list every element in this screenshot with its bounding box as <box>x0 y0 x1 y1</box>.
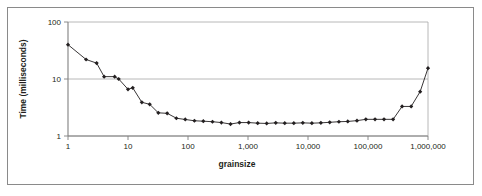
data-point-marker <box>102 75 106 79</box>
series-line-time vs grainsize <box>68 45 428 124</box>
x-axis-title: grainsize <box>219 159 256 169</box>
x-tick-label-100: 100 <box>181 142 195 151</box>
data-point-marker <box>237 120 241 124</box>
x-tick-label-1,000,000: 1,000,000 <box>410 142 446 151</box>
y-tick-label-1: 1 <box>57 132 62 141</box>
data-point-marker <box>95 61 99 65</box>
data-point-marker <box>113 75 117 79</box>
y-tick-label-10: 10 <box>52 75 61 84</box>
data-point-marker <box>165 111 169 115</box>
data-point-marker <box>283 121 287 125</box>
data-point-marker <box>140 100 144 104</box>
data-point-marker <box>210 120 214 124</box>
data-point-marker <box>192 119 196 123</box>
data-point-marker <box>301 121 305 125</box>
data-point-marker <box>382 117 386 121</box>
chart-plot-area: 1101001101001,00010,000100,0001,000,000g… <box>0 0 482 196</box>
data-point-marker <box>247 120 251 124</box>
data-point-marker <box>364 117 368 121</box>
data-point-marker <box>355 119 359 123</box>
data-point-marker <box>201 119 205 123</box>
x-tick-label-10,000: 10,000 <box>296 142 321 151</box>
data-point-marker <box>292 121 296 125</box>
data-point-marker <box>256 121 260 125</box>
x-tick-label-1,000: 1,000 <box>238 142 259 151</box>
data-point-marker <box>174 116 178 120</box>
x-tick-label-1: 1 <box>66 142 71 151</box>
y-tick-label-100: 100 <box>48 18 62 27</box>
data-point-marker <box>418 90 422 94</box>
data-point-marker <box>219 120 223 124</box>
data-point-marker <box>131 86 135 90</box>
data-point-marker <box>373 117 377 121</box>
data-point-marker <box>265 121 269 125</box>
chart-svg: 1101001101001,00010,000100,0001,000,000g… <box>0 0 482 196</box>
data-point-marker <box>328 120 332 124</box>
x-tick-label-10: 10 <box>124 142 133 151</box>
data-point-marker <box>337 120 341 124</box>
data-point-marker <box>319 121 323 125</box>
data-point-marker <box>426 66 430 70</box>
data-point-marker <box>183 117 187 121</box>
y-axis-title: Time (milliseconds) <box>18 39 28 118</box>
data-point-marker <box>310 121 314 125</box>
data-point-marker <box>409 104 413 108</box>
data-point-marker <box>274 121 278 125</box>
data-point-marker <box>228 122 232 126</box>
x-tick-label-100,000: 100,000 <box>354 142 383 151</box>
data-point-marker <box>346 119 350 123</box>
figure-container: 1101001101001,00010,000100,0001,000,000g… <box>0 0 482 196</box>
